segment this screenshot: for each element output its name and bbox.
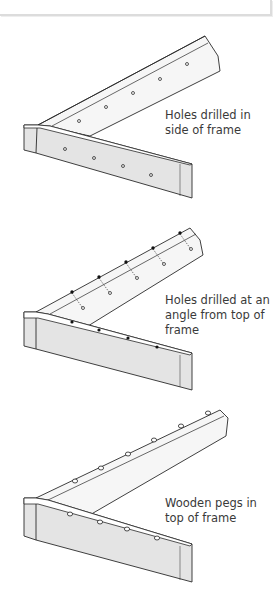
panel-side-holes: Holes drilled in side of frame	[0, 28, 279, 203]
caption-wooden-pegs: Wooden pegs in top of frame	[165, 496, 275, 526]
caption-angled-holes: Holes drilled at an angle from top of fr…	[165, 293, 275, 338]
panel-wooden-pegs: Wooden pegs in top of frame	[0, 408, 279, 588]
caption-side-holes: Holes drilled in side of frame	[165, 108, 275, 138]
top-border-frame	[0, 0, 272, 16]
panel-angled-holes: Holes drilled at an angle from top of fr…	[0, 222, 279, 397]
